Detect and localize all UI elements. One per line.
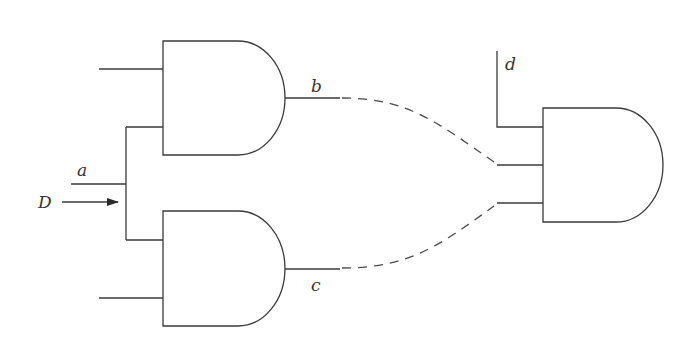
dashed-connection-c (342, 206, 494, 268)
and-gate-2 (99, 211, 340, 326)
and-gate-3-body (543, 108, 663, 222)
and-gate-2-body (163, 211, 285, 326)
label-b: b (311, 76, 322, 96)
label-D: D (37, 192, 52, 212)
and-gate-3 (497, 51, 663, 222)
logic-circuit-diagram: a D b c d (0, 0, 695, 342)
dashed-connection-b (342, 98, 494, 162)
label-a: a (77, 160, 87, 180)
label-c: c (311, 275, 321, 295)
and-gate-1-body (163, 41, 285, 155)
label-d: d (505, 54, 516, 74)
input-a-branch (71, 127, 126, 240)
and-gate-3-input-d-wire (497, 51, 543, 127)
and-gate-1 (99, 41, 340, 155)
